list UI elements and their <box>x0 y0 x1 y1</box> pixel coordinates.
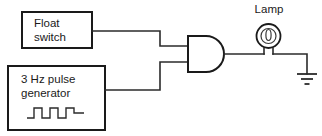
float-switch-label-line1: Float <box>34 17 60 29</box>
earth-ground-icon <box>297 74 317 84</box>
pulse-generator-label-line1: 3 Hz pulse <box>21 73 75 85</box>
wire-float-switch-to-and-input-a <box>92 31 188 46</box>
wire-pulse-generator-to-and-input-b <box>105 62 188 90</box>
pulse-generator-block[interactable]: 3 Hz pulse generator <box>8 66 105 130</box>
wire-lamp-to-ground <box>273 54 307 74</box>
float-switch-block[interactable]: Float switch <box>22 12 92 48</box>
and-gate-body <box>188 36 224 72</box>
pulse-generator-label-line2: generator <box>21 87 70 99</box>
lamp[interactable]: Lamp <box>255 3 284 48</box>
circuit-canvas: Float switch 3 Hz pulse generator Lamp <box>0 0 322 136</box>
lamp-filament-icon <box>266 30 271 41</box>
and-gate[interactable] <box>188 36 224 72</box>
float-switch-label-line2: switch <box>34 31 66 43</box>
circuit-diagram: Float switch 3 Hz pulse generator Lamp <box>0 0 322 136</box>
lamp-label: Lamp <box>255 3 284 15</box>
